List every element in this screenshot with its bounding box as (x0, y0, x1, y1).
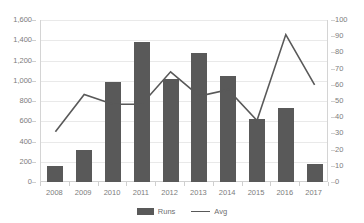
x-axis-tick-label-2008: 2008 (40, 188, 69, 197)
y2-axis-tick-label: 90 (335, 32, 343, 40)
legend-label-runs: Runs (158, 207, 176, 216)
y2-axis-tick-label: 70 (335, 65, 343, 73)
y-axis-tick-mark (32, 182, 36, 183)
y2-axis-tick-mark (331, 85, 335, 86)
y-axis-secondary: 0102030405060708090100 (331, 20, 363, 182)
x-axis-tick-mark (299, 182, 300, 186)
legend-item-avg[interactable]: Avg (191, 207, 227, 216)
legend-item-runs[interactable]: Runs (137, 207, 176, 216)
y-axis-tick-mark (32, 20, 36, 21)
x-axis-tick-mark (328, 182, 329, 186)
y2-axis-tick-label: 30 (335, 129, 343, 137)
x-axis-tick-mark (270, 182, 271, 186)
y-axis-tick-label: 1,600 (13, 16, 32, 24)
x-axis-tick-mark (98, 182, 99, 186)
x-axis-tick-label-2011: 2011 (126, 188, 155, 197)
chart-legend: Runs Avg (0, 205, 364, 217)
y-axis-tick-mark (32, 121, 36, 122)
x-axis-tick-label-2014: 2014 (213, 188, 242, 197)
x-axis-tick-label-2012: 2012 (155, 188, 184, 197)
y-axis-primary: 02004006008001,0001,2001,4001,600 (0, 20, 36, 182)
line-series-avg (41, 20, 329, 182)
line-swatch-icon (191, 211, 210, 212)
x-axis-tick-mark (155, 182, 156, 186)
x-axis-tick-label-2016: 2016 (270, 188, 299, 197)
x-axis-tick-label-2010: 2010 (98, 188, 127, 197)
y-axis-tick-label: 200 (19, 158, 32, 166)
y2-axis-tick-label: 20 (335, 146, 343, 154)
y2-axis-tick-mark (331, 36, 335, 37)
y-axis-tick-mark (32, 162, 36, 163)
y2-axis-tick-mark (331, 166, 335, 167)
y-axis-tick-label: 1,000 (13, 77, 32, 85)
x-axis: 2008200920102011201220132014201520162017 (40, 182, 328, 202)
y2-axis-tick-mark (331, 69, 335, 70)
bar-swatch-icon (137, 208, 154, 215)
y2-axis-tick-label: 0 (335, 178, 339, 186)
y2-axis-tick-label: 60 (335, 81, 343, 89)
y2-axis-tick-mark (331, 133, 335, 134)
x-axis-tick-mark (242, 182, 243, 186)
y-axis-tick-mark (32, 61, 36, 62)
y2-axis-tick-mark (331, 52, 335, 53)
y2-axis-tick-label: 40 (335, 113, 343, 121)
x-axis-tick-label-2017: 2017 (299, 188, 328, 197)
plot-area (40, 20, 328, 182)
x-axis-tick-mark (213, 182, 214, 186)
x-axis-tick-mark (69, 182, 70, 186)
y2-axis-tick-mark (331, 182, 335, 183)
y-axis-tick-label: 800 (19, 97, 32, 105)
y2-axis-tick-label: 10 (335, 162, 343, 170)
y-axis-tick-label: 400 (19, 138, 32, 146)
y-axis-tick-label: 1,400 (13, 36, 32, 44)
x-axis-tick-mark (40, 182, 41, 186)
chart-title (0, 0, 364, 10)
y2-axis-tick-label: 80 (335, 48, 343, 56)
x-axis-tick-label-2013: 2013 (184, 188, 213, 197)
x-axis-tick-label-2015: 2015 (242, 188, 271, 197)
y2-axis-tick-mark (331, 117, 335, 118)
y2-axis-tick-mark (331, 20, 335, 21)
legend-label-avg: Avg (214, 207, 227, 216)
y2-axis-tick-mark (331, 101, 335, 102)
y-axis-tick-label: 600 (19, 117, 32, 125)
y2-axis-tick-label: 50 (335, 97, 343, 105)
y-axis-tick-mark (32, 101, 36, 102)
y-axis-tick-mark (32, 81, 36, 82)
y-axis-tick-label: 1,200 (13, 57, 32, 65)
y-axis-tick-mark (32, 142, 36, 143)
y2-axis-tick-label: 100 (335, 16, 348, 24)
chart-container: 02004006008001,0001,2001,4001,600 010203… (0, 0, 364, 223)
x-axis-tick-mark (126, 182, 127, 186)
x-axis-tick-label-2009: 2009 (69, 188, 98, 197)
x-axis-tick-mark (184, 182, 185, 186)
y2-axis-tick-mark (331, 150, 335, 151)
y-axis-tick-mark (32, 40, 36, 41)
